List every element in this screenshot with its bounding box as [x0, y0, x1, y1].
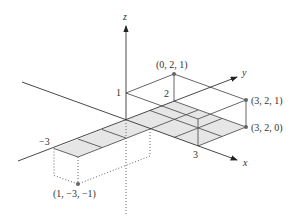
- 3d-coordinate-diagram: z y x 1 2 3 −3 (0, 2, 1) (3, 2, 1) (3, 2…: [0, 0, 296, 224]
- label-point-0-2-1: (0, 2, 1): [156, 59, 188, 71]
- x-axis-label: x: [242, 157, 248, 168]
- point-1-neg3-neg1: [76, 182, 80, 186]
- label-point-3-2-1: (3, 2, 1): [251, 95, 283, 107]
- point-3-2-0: [244, 125, 248, 129]
- tick-x-3: 3: [193, 149, 198, 160]
- y-axis-label: y: [241, 67, 247, 78]
- tick-z-1: 1: [116, 87, 121, 98]
- point-0-2-1: [172, 72, 176, 76]
- label-point-1-neg3-neg1: (1, −3, −1): [53, 188, 96, 200]
- tick-y-2: 2: [164, 88, 169, 99]
- point-3-2-1: [244, 98, 248, 102]
- label-point-3-2-0: (3, 2, 0): [251, 122, 283, 134]
- z-axis-label: z: [122, 11, 127, 22]
- tick-y-neg3: −3: [39, 136, 50, 147]
